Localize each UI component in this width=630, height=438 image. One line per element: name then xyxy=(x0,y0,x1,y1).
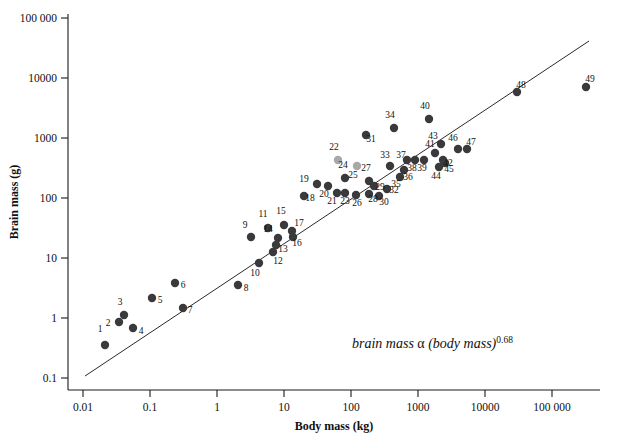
x-tick-label-2: 1 xyxy=(214,401,220,413)
x-tick-label-4: 100 xyxy=(342,401,360,413)
equation-exponent: 0.68 xyxy=(496,335,513,345)
data-point-label-38: 38 xyxy=(407,163,417,173)
data-point-9 xyxy=(247,233,255,241)
data-point-6 xyxy=(171,279,179,287)
data-point-43 xyxy=(437,140,445,148)
data-point-40 xyxy=(425,115,433,123)
y-tick-label-6: 0.1 xyxy=(43,372,58,384)
equation-annotation-group: brain mass α (body mass)0.68 xyxy=(352,335,513,352)
data-point-label-24: 24 xyxy=(338,160,348,170)
data-point-25 xyxy=(353,162,361,170)
point-labels-group: 1234567891011121314151617181920212223242… xyxy=(98,74,595,336)
data-point-49 xyxy=(582,83,590,91)
data-point-41 xyxy=(431,149,439,157)
y-tick-label-2: 1000 xyxy=(34,132,57,144)
data-point-33 xyxy=(386,162,394,170)
data-point-label-4: 4 xyxy=(139,326,144,336)
data-point-label-29: 29 xyxy=(375,182,385,192)
x-axis-title: Body mass (kg) xyxy=(295,419,374,433)
y-tick-label-0: 100 000 xyxy=(20,12,58,24)
data-point-label-18: 18 xyxy=(305,193,315,203)
data-point-label-25: 25 xyxy=(348,170,358,180)
data-point-label-30: 30 xyxy=(379,197,389,207)
data-point-label-33: 33 xyxy=(380,150,390,160)
data-point-label-27: 27 xyxy=(361,163,371,173)
data-point-label-6: 6 xyxy=(181,280,186,290)
data-point-label-3: 3 xyxy=(118,297,123,307)
data-point-label-43: 43 xyxy=(428,131,438,141)
data-point-label-2: 2 xyxy=(106,318,111,328)
equation-alpha-symbol: α xyxy=(417,336,428,351)
data-point-7 xyxy=(179,304,187,312)
data-point-label-44: 44 xyxy=(431,171,441,181)
data-point-label-39: 39 xyxy=(417,163,427,173)
data-point-label-31: 31 xyxy=(366,134,376,144)
data-points-group xyxy=(101,83,590,349)
x-tick-label-0: 0.01 xyxy=(73,401,93,413)
x-tick-label-7: 100 000 xyxy=(533,401,571,413)
data-point-label-5: 5 xyxy=(158,295,163,305)
allometry-equation-text: brain mass α (body mass)0.68 xyxy=(352,335,513,352)
data-point-14 xyxy=(274,234,282,242)
data-point-label-47: 47 xyxy=(466,137,476,147)
x-tick-label-5: 1000 xyxy=(407,401,430,413)
data-point-label-23: 23 xyxy=(340,196,350,206)
plot-canvas: 100 0001000010001001010.10.010.111010010… xyxy=(0,0,630,438)
data-point-label-13: 13 xyxy=(278,244,288,254)
data-point-10 xyxy=(255,259,263,267)
equation-main: brain mass xyxy=(352,336,417,351)
data-point-label-19: 19 xyxy=(299,174,309,184)
data-point-label-37: 37 xyxy=(396,150,406,160)
data-point-34 xyxy=(390,124,398,132)
data-point-label-34: 34 xyxy=(385,110,395,120)
data-point-19 xyxy=(313,180,321,188)
y-tick-label-5: 1 xyxy=(51,312,57,324)
data-point-label-1: 1 xyxy=(98,324,103,334)
data-point-label-21: 21 xyxy=(327,196,337,206)
data-point-label-49: 49 xyxy=(585,74,595,84)
y-tick-label-4: 10 xyxy=(46,252,58,264)
x-tick-label-1: 0.1 xyxy=(143,401,158,413)
data-point-label-35: 35 xyxy=(391,179,401,189)
data-point-label-45: 45 xyxy=(444,164,454,174)
data-point-label-48: 48 xyxy=(516,80,526,90)
data-point-label-7: 7 xyxy=(188,305,193,315)
equation-paren: (body mass) xyxy=(428,336,496,352)
x-tick-label-6: 10000 xyxy=(471,401,500,413)
data-point-label-15: 15 xyxy=(276,206,286,216)
data-point-17 xyxy=(288,227,296,235)
data-point-8 xyxy=(234,281,242,289)
data-point-label-10: 10 xyxy=(250,268,260,278)
data-point-label-36: 36 xyxy=(403,172,413,182)
data-point-2 xyxy=(115,318,123,326)
data-point-label-8: 8 xyxy=(244,283,249,293)
data-point-15 xyxy=(280,221,288,229)
data-point-5 xyxy=(148,294,156,302)
data-point-label-9: 9 xyxy=(243,220,248,230)
data-point-label-22: 22 xyxy=(329,142,339,152)
data-point-3 xyxy=(120,311,128,319)
y-tick-label-3: 100 xyxy=(40,192,58,204)
data-point-1 xyxy=(101,341,109,349)
data-point-label-40: 40 xyxy=(420,101,430,111)
data-point-4 xyxy=(129,324,137,332)
data-point-label-46: 46 xyxy=(448,133,458,143)
data-point-label-12: 12 xyxy=(273,256,283,266)
data-point-label-14: 14 xyxy=(263,224,273,234)
data-point-label-11: 11 xyxy=(258,209,267,219)
data-point-46 xyxy=(454,145,462,153)
data-point-label-26: 26 xyxy=(352,198,362,208)
data-point-label-17: 17 xyxy=(294,218,304,228)
x-tick-label-3: 10 xyxy=(278,401,290,413)
data-point-label-28: 28 xyxy=(368,194,378,204)
y-axis-title: Brain mass (g) xyxy=(7,165,21,240)
y-tick-label-1: 10000 xyxy=(28,72,57,84)
scatter-plot-figure: 100 0001000010001001010.10.010.111010010… xyxy=(0,0,630,438)
data-point-label-16: 16 xyxy=(292,238,302,248)
